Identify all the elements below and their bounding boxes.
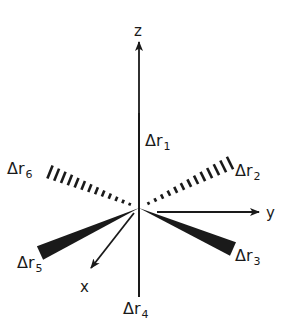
bond-label-r3: Δr3 — [235, 246, 261, 268]
bond-label-r5: Δr5 — [17, 253, 43, 275]
bond-label-r4: Δr4 — [123, 299, 149, 321]
bond-r6 — [47, 166, 130, 206]
bond-label-r2: Δr2 — [235, 161, 261, 183]
x-axis-label: x — [80, 278, 89, 296]
labels-layer: Δr1Δr2Δr3Δr4Δr5Δr6zyx — [7, 22, 275, 321]
bond-label-r1: Δr1 — [145, 131, 171, 153]
bond-label-r6: Δr6 — [7, 159, 33, 181]
y-axis-label: y — [266, 204, 275, 222]
z-axis-label: z — [134, 22, 142, 40]
bond-r3 — [139, 208, 236, 256]
octahedral-displacement-diagram: Δr1Δr2Δr3Δr4Δr5Δr6zyx — [0, 0, 289, 331]
axes-layer — [91, 42, 259, 268]
bond-r5 — [37, 208, 139, 260]
bonds-layer — [37, 113, 236, 297]
bond-r2 — [148, 157, 233, 205]
